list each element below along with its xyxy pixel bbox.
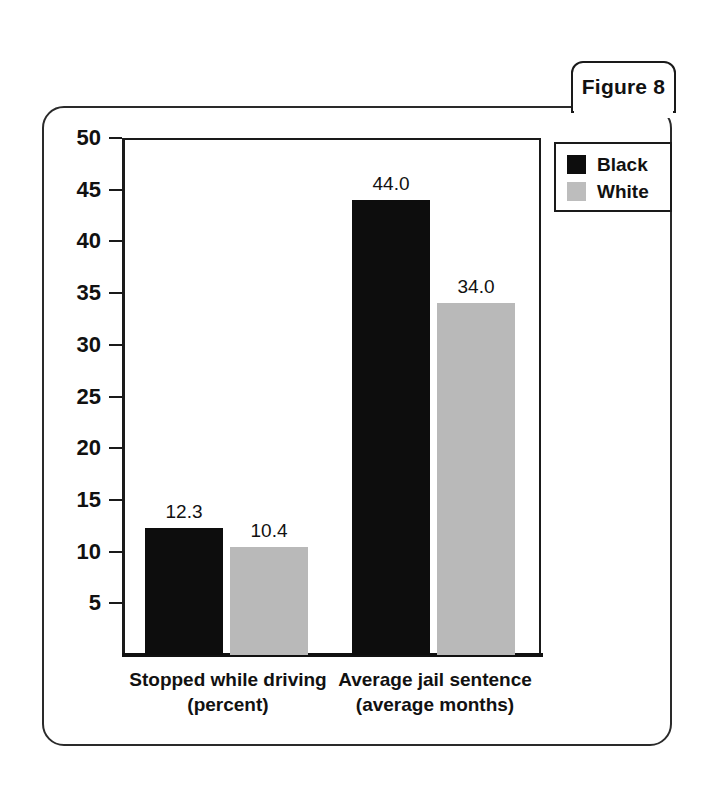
category-label-1-line1: Average jail sentence [315,668,555,693]
bars-layer: 12.310.444.034.0 [0,0,710,655]
bar-value-label-black-1: 44.0 [352,174,430,193]
bar-value-label-black-0: 12.3 [145,502,223,521]
bar-white-0 [230,547,308,655]
category-label-0-line1: Stopped while driving [108,668,348,693]
bar-value-label-white-0: 10.4 [230,521,308,540]
chart-legend: Black White [554,142,672,212]
bar-white-1 [437,303,515,655]
legend-item-black: Black [567,151,670,178]
bar-chart: 5101520253035404550 12.310.444.034.0 Sto… [0,0,710,790]
white-swatch-icon [567,182,586,201]
category-label-0-line2: (percent) [108,693,348,718]
black-swatch-icon [567,155,586,174]
legend-label-white: White [597,182,649,201]
category-label-1: Average jail sentence (average months) [315,668,555,717]
category-label-0: Stopped while driving (percent) [108,668,348,717]
bar-black-1 [352,200,430,655]
bar-black-0 [145,528,223,655]
legend-item-white: White [567,178,670,205]
bar-value-label-white-1: 34.0 [437,277,515,296]
category-label-1-line2: (average months) [315,693,555,718]
legend-label-black: Black [597,155,648,174]
